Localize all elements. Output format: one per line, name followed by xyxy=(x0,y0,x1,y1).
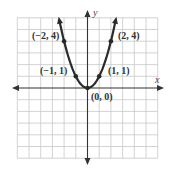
data-point xyxy=(85,86,90,91)
point-label-neg2-4: (−2, 4) xyxy=(32,30,59,42)
point-label-1-1: (1, 1) xyxy=(108,65,130,77)
y-axis-label: y xyxy=(92,7,98,18)
point-label-2-4: (2, 4) xyxy=(118,30,140,42)
data-point xyxy=(97,74,102,79)
x-axis-left-arrow-icon xyxy=(12,85,19,91)
y-axis-down-arrow-icon xyxy=(85,158,91,165)
x-axis-right-arrow-icon xyxy=(157,85,164,91)
point-label-neg1-1: (−1, 1) xyxy=(40,65,67,77)
data-point xyxy=(109,39,114,44)
parabola-chart: x y (−2, 4) (−1, 1) (0, 0) (1, 1) (2, 4) xyxy=(0,0,173,169)
data-point xyxy=(62,39,67,44)
point-label-origin: (0, 0) xyxy=(91,91,113,103)
x-axis-label: x xyxy=(154,74,160,85)
y-axis-up-arrow-icon xyxy=(85,10,91,17)
data-point xyxy=(74,74,79,79)
